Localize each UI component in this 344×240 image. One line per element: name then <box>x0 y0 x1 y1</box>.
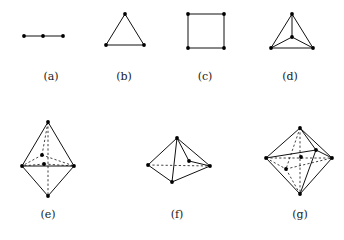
diagram-bipyramid-with-interior-vertices <box>18 118 84 200</box>
vertex-dot <box>20 164 24 168</box>
vertex-dot <box>311 46 315 50</box>
edge <box>125 14 144 45</box>
vertex-dot <box>146 163 150 167</box>
edge <box>300 128 332 158</box>
vertex-dot <box>264 156 268 160</box>
vertex-dot <box>284 167 288 171</box>
vertex-dot <box>170 180 174 184</box>
diagram-tetrahedron-projection <box>265 10 325 60</box>
edge <box>316 150 332 158</box>
diagram-path-graph-three-vertices <box>18 22 88 62</box>
edge <box>48 166 74 196</box>
vertex-dot <box>46 194 50 198</box>
vertex-dot <box>298 126 302 130</box>
vertex-dot <box>222 12 226 16</box>
edge <box>177 138 189 161</box>
panel-label-b: (b) <box>110 70 138 83</box>
vertex-dot <box>46 120 50 124</box>
vertex-dot <box>40 153 44 157</box>
vertex-dot <box>187 159 191 163</box>
vertex-dot <box>269 46 273 50</box>
edge <box>106 14 125 45</box>
panel-label-c: (c) <box>191 70 219 83</box>
edge <box>172 166 210 182</box>
hidden-edge <box>42 155 74 166</box>
panel-label-g: (g) <box>286 208 314 221</box>
hidden-edge <box>148 165 210 166</box>
edge <box>148 165 172 182</box>
vertex-dot <box>208 164 212 168</box>
panel-label-a: (a) <box>37 70 65 83</box>
vertex-dot <box>290 12 294 16</box>
vertex-dot <box>175 136 179 140</box>
figure-container: (a)(b)(c)(d)(e)(f)(g) <box>0 0 344 240</box>
diagram-square-pyramid-with-interior-vertex <box>142 134 218 194</box>
edge <box>172 138 177 182</box>
vertex-dot <box>330 156 334 160</box>
edge <box>266 158 300 194</box>
vertex-dot <box>104 43 108 47</box>
edge <box>300 128 316 150</box>
vertex-dot <box>186 46 190 50</box>
edge <box>22 122 48 166</box>
vertex-dot <box>222 46 226 50</box>
diagram-octahedron-with-center-vertex <box>262 124 338 200</box>
vertex-dot <box>72 164 76 168</box>
edge <box>22 166 48 196</box>
vertex-dot <box>299 155 303 159</box>
edge <box>300 158 332 194</box>
vertex-dot <box>142 43 146 47</box>
panel-label-d: (d) <box>276 70 304 83</box>
vertex-dot <box>61 34 65 38</box>
edge <box>48 122 74 166</box>
vertex-dot <box>123 12 127 16</box>
vertex-dot <box>298 192 302 196</box>
hidden-edge <box>286 158 332 169</box>
hidden-edge <box>266 158 286 169</box>
edge <box>148 138 177 165</box>
vertex-dot <box>41 34 45 38</box>
diagram-square-graph <box>182 10 242 60</box>
vertex-dot <box>314 148 318 152</box>
panel-label-f: (f) <box>163 208 191 221</box>
panel-label-e: (e) <box>34 208 62 221</box>
diagram-triangle-graph <box>100 10 160 60</box>
vertex-dot <box>42 162 46 166</box>
vertex-dot <box>186 12 190 16</box>
vertex-dot <box>22 34 26 38</box>
vertex-dot <box>290 35 294 39</box>
